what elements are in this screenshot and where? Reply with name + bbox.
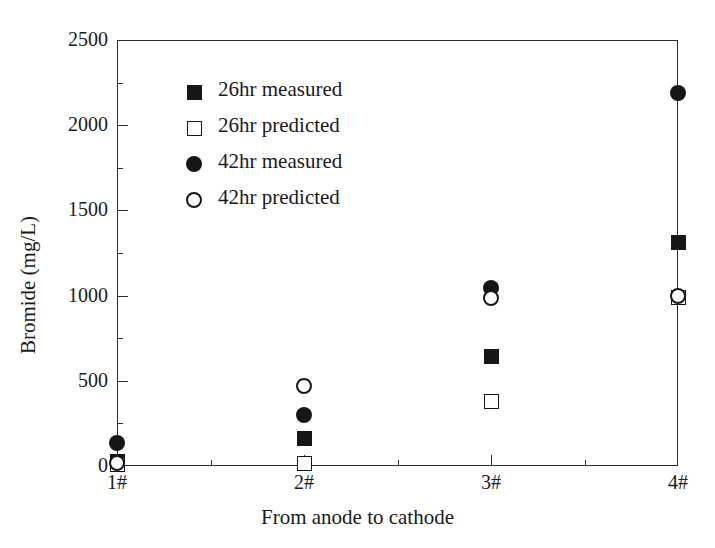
y-tick-minor [117, 423, 123, 424]
y-axis-title: Bromide (mg/L) [16, 216, 41, 354]
legend-item-label: 42hr predicted [218, 182, 340, 212]
x-tick-minor [211, 460, 212, 466]
data-point-marker [297, 456, 312, 471]
legend-item: 26hr predicted [186, 110, 486, 146]
data-point-marker [109, 435, 125, 451]
legend-item: 42hr measured [186, 146, 486, 182]
y-tick-major [117, 296, 128, 297]
data-point-marker [297, 431, 312, 446]
legend-marker-icon [187, 121, 202, 136]
x-tick-label: 1# [77, 470, 157, 494]
y-tick-major [117, 381, 128, 382]
legend-marker-icon [187, 85, 202, 100]
legend-marker-icon [186, 156, 202, 172]
x-tick-minor [398, 460, 399, 466]
data-point-marker [109, 455, 125, 471]
y-tick-minor [117, 253, 123, 254]
y-tick-major [117, 210, 128, 211]
bromide-scatter-chart: 05001000150020002500 1#2#3#4# 26hr measu… [0, 0, 715, 548]
data-point-marker [484, 394, 499, 409]
legend-item-label: 42hr measured [218, 146, 342, 176]
data-point-marker [670, 85, 686, 101]
legend-item-label: 26hr measured [218, 74, 342, 104]
data-point-marker [484, 349, 499, 364]
legend-item: 42hr predicted [186, 182, 486, 218]
y-tick-minor [117, 168, 123, 169]
legend-item-label: 26hr predicted [218, 110, 340, 140]
x-tick-label: 2# [264, 470, 344, 494]
chart-legend: 26hr measured26hr predicted42hr measured… [186, 74, 486, 218]
data-point-marker [671, 235, 686, 250]
data-point-marker [296, 378, 312, 394]
legend-item: 26hr measured [186, 74, 486, 110]
x-tick-minor [585, 460, 586, 466]
y-tick-minor [117, 338, 123, 339]
legend-marker-icon [186, 192, 202, 208]
x-axis-title: From anode to cathode [0, 505, 715, 530]
y-tick-major [117, 125, 128, 126]
y-tick-minor [117, 83, 123, 84]
x-tick-major [491, 455, 492, 466]
x-tick-label: 3# [451, 470, 531, 494]
data-point-marker [296, 407, 312, 423]
x-tick-label: 4# [638, 470, 715, 494]
